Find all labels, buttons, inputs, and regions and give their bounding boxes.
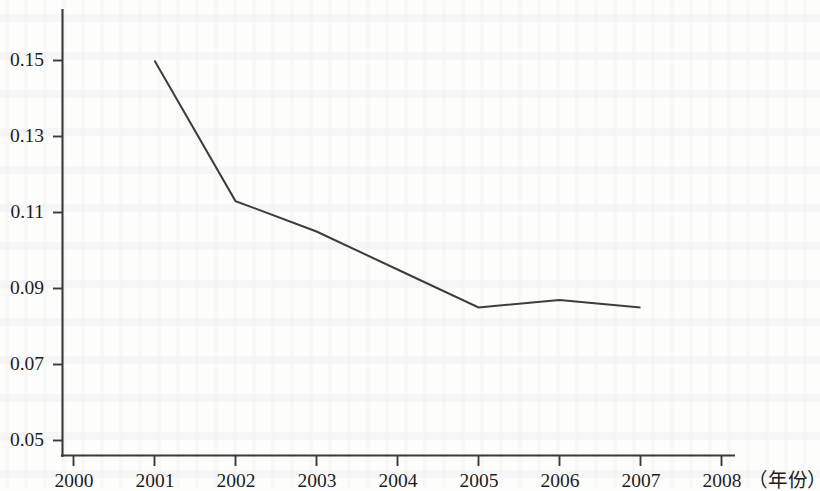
y-tick-label-0.05: 0.05	[0, 430, 44, 450]
y-tick-label-0.07: 0.07	[0, 354, 44, 374]
y-tick-label-0.09: 0.09	[0, 278, 44, 298]
x-tick-label-2008: 2008	[703, 471, 742, 491]
x-tick-label-2006: 2006	[541, 471, 580, 491]
x-tick-label-2003: 2003	[298, 471, 337, 491]
x-tick-label-2001: 2001	[136, 471, 175, 491]
x-tick-label-2007: 2007	[622, 471, 661, 491]
x-tick-label-2005: 2005	[460, 471, 499, 491]
x-axis-unit-label: （年份）	[748, 471, 820, 491]
x-tick-label-2004: 2004	[379, 471, 418, 491]
data-series-line	[155, 61, 641, 308]
y-tick-label-0.15: 0.15	[0, 50, 44, 70]
y-tick-label-0.13: 0.13	[0, 126, 44, 146]
y-axis	[53, 10, 63, 456]
x-axis	[62, 456, 734, 467]
y-tick-label-0.11: 0.11	[0, 202, 44, 222]
x-tick-label-2002: 2002	[217, 471, 256, 491]
x-tick-label-2000: 2000	[55, 471, 94, 491]
